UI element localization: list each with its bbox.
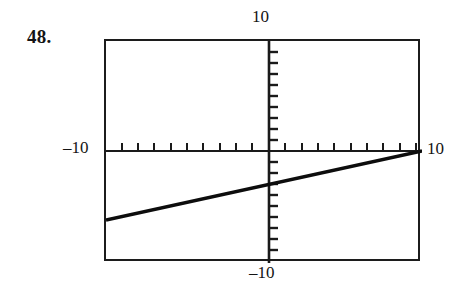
plot-canvas	[106, 41, 422, 263]
graph-figure: 48.	[0, 0, 465, 301]
x-axis-max-label: 10	[427, 140, 444, 158]
plotted-line	[106, 151, 422, 220]
x-axis-min-label: –10	[63, 139, 89, 157]
y-axis-min-label: –10	[249, 264, 275, 282]
exercise-number: 48.	[27, 27, 51, 47]
plot-frame	[104, 39, 420, 261]
y-axis-max-label: 10	[252, 8, 269, 26]
